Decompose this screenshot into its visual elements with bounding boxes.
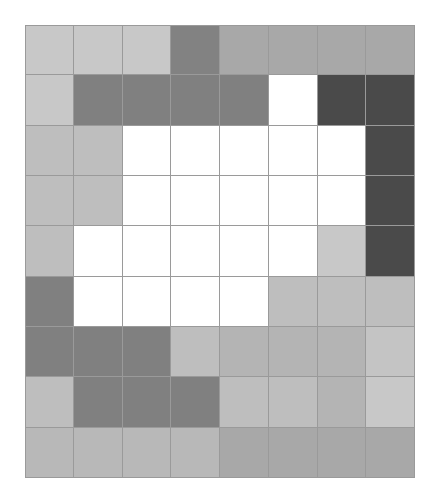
heatmap-grid — [25, 25, 415, 478]
heatmap-cell-r1-c4 — [171, 25, 220, 75]
heatmap-cell-r8-c1 — [25, 377, 74, 427]
heatmap-cell-r3-c1 — [25, 126, 74, 176]
heatmap-cell-r3-c7 — [318, 126, 367, 176]
heatmap-cell-r7-c7 — [318, 327, 367, 377]
heatmap-cell-r7-c8 — [366, 327, 415, 377]
heatmap-cell-r2-c3 — [123, 75, 172, 125]
heatmap-cell-r2-c7 — [318, 75, 367, 125]
heatmap-cell-r4-c5 — [220, 176, 269, 226]
heatmap-cell-r5-c5 — [220, 226, 269, 276]
heatmap-cell-r8-c6 — [269, 377, 318, 427]
heatmap-cell-r4-c2 — [74, 176, 123, 226]
heatmap-plot-area — [25, 25, 415, 478]
heatmap-cell-r9-c4 — [171, 428, 220, 478]
heatmap-cell-r5-c3 — [123, 226, 172, 276]
heatmap-cell-r6-c7 — [318, 277, 367, 327]
heatmap-cell-r5-c6 — [269, 226, 318, 276]
heatmap-cell-r4-c7 — [318, 176, 367, 226]
heatmap-cell-r1-c5 — [220, 25, 269, 75]
heatmap-cell-r5-c8 — [366, 226, 415, 276]
heatmap-cell-r6-c1 — [25, 277, 74, 327]
heatmap-cell-r7-c2 — [74, 327, 123, 377]
heatmap-cell-r8-c8 — [366, 377, 415, 427]
heatmap-cell-r2-c2 — [74, 75, 123, 125]
heatmap-cell-r2-c5 — [220, 75, 269, 125]
heatmap-cell-r6-c2 — [74, 277, 123, 327]
heatmap-cell-r3-c5 — [220, 126, 269, 176]
heatmap-cell-r4-c4 — [171, 176, 220, 226]
heatmap-cell-r3-c4 — [171, 126, 220, 176]
heatmap-cell-r8-c7 — [318, 377, 367, 427]
heatmap-cell-r1-c8 — [366, 25, 415, 75]
heatmap-cell-r3-c8 — [366, 126, 415, 176]
heatmap-cell-r2-c6 — [269, 75, 318, 125]
heatmap-cell-r8-c4 — [171, 377, 220, 427]
heatmap-cell-r9-c1 — [25, 428, 74, 478]
heatmap-cell-r6-c6 — [269, 277, 318, 327]
heatmap-cell-r4-c1 — [25, 176, 74, 226]
heatmap-cell-r4-c3 — [123, 176, 172, 226]
heatmap-cell-r3-c6 — [269, 126, 318, 176]
heatmap-cell-r2-c8 — [366, 75, 415, 125]
heatmap-cell-r9-c6 — [269, 428, 318, 478]
heatmap-cell-r8-c3 — [123, 377, 172, 427]
heatmap-cell-r1-c3 — [123, 25, 172, 75]
heatmap-cell-r1-c6 — [269, 25, 318, 75]
heatmap-cell-r5-c4 — [171, 226, 220, 276]
heatmap-cell-r2-c4 — [171, 75, 220, 125]
heatmap-cell-r6-c3 — [123, 277, 172, 327]
heatmap-cell-r7-c1 — [25, 327, 74, 377]
heatmap-cell-r7-c6 — [269, 327, 318, 377]
heatmap-cell-r1-c1 — [25, 25, 74, 75]
heatmap-cell-r8-c5 — [220, 377, 269, 427]
heatmap-cell-r9-c2 — [74, 428, 123, 478]
heatmap-cell-r1-c7 — [318, 25, 367, 75]
heatmap-cell-r9-c5 — [220, 428, 269, 478]
heatmap-cell-r1-c2 — [74, 25, 123, 75]
heatmap-cell-r7-c5 — [220, 327, 269, 377]
heatmap-cell-r5-c7 — [318, 226, 367, 276]
heatmap-cell-r8-c2 — [74, 377, 123, 427]
heatmap-cell-r6-c5 — [220, 277, 269, 327]
screenshot-canvas — [0, 0, 438, 502]
heatmap-cell-r5-c2 — [74, 226, 123, 276]
heatmap-cell-r7-c4 — [171, 327, 220, 377]
heatmap-cell-r9-c8 — [366, 428, 415, 478]
heatmap-cell-r5-c1 — [25, 226, 74, 276]
heatmap-cell-r9-c7 — [318, 428, 367, 478]
heatmap-cell-r3-c3 — [123, 126, 172, 176]
heatmap-cell-r4-c6 — [269, 176, 318, 226]
heatmap-cell-r6-c8 — [366, 277, 415, 327]
heatmap-cell-r2-c1 — [25, 75, 74, 125]
heatmap-cell-r3-c2 — [74, 126, 123, 176]
heatmap-cell-r4-c8 — [366, 176, 415, 226]
heatmap-cell-r7-c3 — [123, 327, 172, 377]
heatmap-cell-r9-c3 — [123, 428, 172, 478]
heatmap-cell-r6-c4 — [171, 277, 220, 327]
